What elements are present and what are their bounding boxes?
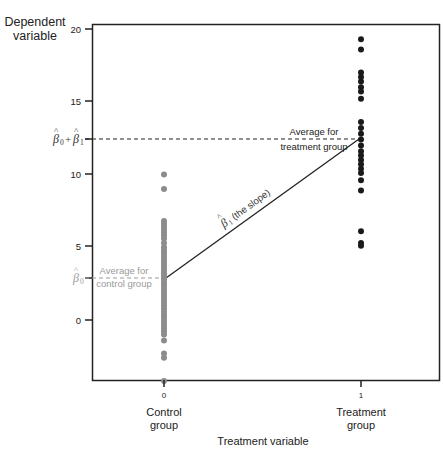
data-point xyxy=(161,186,167,192)
slope-label: β ^ 1 (the slope) xyxy=(213,180,273,232)
y-axis-ticks xyxy=(85,29,92,320)
data-point xyxy=(161,332,167,338)
regression-scatter-chart: Dependent variable 20 15 10 5 0 β ^ 0 + … xyxy=(0,0,443,462)
control-group-points xyxy=(161,172,167,385)
y-axis-title-line1: Dependent xyxy=(4,15,66,29)
data-point xyxy=(161,355,167,361)
svg-text:0: 0 xyxy=(60,138,64,147)
y-tick-5: 5 xyxy=(76,241,81,252)
data-point xyxy=(358,119,364,125)
treatment-group-points xyxy=(358,36,364,249)
data-point xyxy=(358,243,364,249)
x-tick-1: 1 xyxy=(359,391,364,400)
x-axis-title: Treatment variable xyxy=(217,435,308,447)
b0-axis-label: β ^ 0 xyxy=(72,265,84,286)
svg-text:+: + xyxy=(65,133,71,145)
data-point xyxy=(358,96,364,102)
x-label-treatment-line2: group xyxy=(347,419,375,431)
svg-text:1: 1 xyxy=(80,138,84,147)
data-point xyxy=(358,89,364,95)
x-label-treatment-line1: Treatment xyxy=(336,406,386,418)
data-point xyxy=(161,172,167,178)
data-point xyxy=(358,177,364,183)
data-point xyxy=(358,46,364,52)
treatment-average-label-line1: Average for xyxy=(290,126,339,137)
treatment-average-label-line2: treatment group xyxy=(280,141,347,152)
data-point xyxy=(358,131,364,137)
data-point xyxy=(358,170,364,176)
y-tick-10: 10 xyxy=(70,169,81,180)
data-point xyxy=(161,337,167,343)
y-tick-0: 0 xyxy=(76,315,81,326)
data-point xyxy=(358,228,364,234)
control-average-label-line2: control group xyxy=(96,278,151,289)
control-average-label-line1: Average for xyxy=(100,265,149,276)
y-tick-20: 20 xyxy=(70,24,81,35)
data-point xyxy=(358,137,364,143)
svg-text:0: 0 xyxy=(80,277,84,286)
x-label-control-line2: group xyxy=(150,419,178,431)
plot-frame xyxy=(93,25,440,381)
x-label-control-line1: Control xyxy=(146,406,181,418)
data-point xyxy=(358,188,364,194)
b0-plus-b1-axis-label: β ^ 0 + β ^ 1 xyxy=(52,126,84,147)
y-tick-15: 15 xyxy=(70,96,81,107)
data-point xyxy=(358,142,364,148)
data-point xyxy=(358,36,364,42)
regression-slope-line xyxy=(166,139,359,278)
y-axis-title-line2: variable xyxy=(13,29,57,43)
x-tick-0: 0 xyxy=(162,391,167,400)
data-point xyxy=(358,125,364,131)
data-point xyxy=(358,78,364,84)
